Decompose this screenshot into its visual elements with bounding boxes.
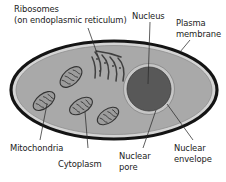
label-nuclear-envelope: Nuclear envelope — [174, 143, 224, 164]
leader-line-plasma-membrane — [180, 40, 190, 52]
ribosome-dot — [112, 65, 114, 67]
label-nucleus: Nucleus — [132, 11, 165, 22]
ribosome-dot — [104, 62, 106, 64]
ribosome-dot — [96, 58, 98, 60]
label-nuclear-envelope-line1: Nuclear — [174, 143, 224, 154]
label-ribosomes: Ribosomes (on endoplasmic reticulum) — [14, 4, 129, 25]
label-plasma-membrane-line2: membrane — [176, 29, 224, 40]
label-plasma-membrane: Plasma membrane — [176, 18, 224, 39]
label-cytoplasm: Cytoplasm — [58, 159, 102, 170]
label-ribosomes-line1: Ribosomes — [14, 4, 129, 15]
label-mitochondria: Mitochondria — [10, 143, 63, 154]
nucleus-body — [127, 67, 171, 111]
label-ribosomes-line2: (on endoplasmic reticulum) — [14, 15, 129, 26]
cell-body — [11, 41, 217, 139]
cell-diagram-figure: Ribosomes (on endoplasmic reticulum) Nuc… — [0, 0, 226, 182]
label-nuclear-pore-line1: Nuclear — [119, 151, 161, 162]
cytoplasm-region — [16, 46, 212, 135]
ribosome-dot — [99, 70, 101, 72]
label-nuclear-envelope-line2: envelope — [174, 154, 224, 165]
ribosome-dot — [119, 67, 121, 69]
nucleus-group — [124, 64, 175, 115]
label-plasma-membrane-line1: Plasma — [176, 18, 224, 29]
label-nuclear-pore: Nuclear pore — [119, 151, 161, 172]
label-nuclear-pore-line2: pore — [119, 162, 161, 173]
